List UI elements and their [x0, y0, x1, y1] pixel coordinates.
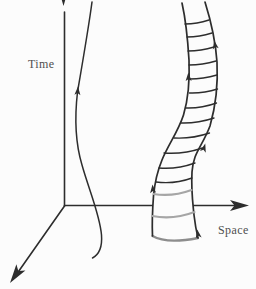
time-axis	[58, 0, 69, 206]
second-space-axis-arrowhead-icon	[5, 264, 25, 286]
world-tube	[152, 2, 217, 240]
second-space-axis	[5, 206, 64, 286]
diagram-canvas: Time Space	[0, 0, 256, 289]
spacetime-diagram: Time Space	[0, 0, 256, 289]
worldline	[76, 2, 102, 258]
world-tube-body	[152, 2, 217, 240]
second-space-axis-line	[15, 206, 65, 277]
space-axis-label: Space	[218, 223, 249, 237]
time-axis-label: Time	[28, 57, 55, 71]
time-axis-arrowhead-icon	[58, 0, 69, 6]
